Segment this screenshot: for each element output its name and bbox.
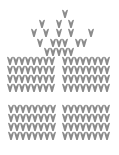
lid-right-stitch-icon [62,75,68,83]
lid-right-stitch-icon [104,66,110,74]
lid-left-stitch-icon [31,57,37,65]
base-left-stitch-icon [38,132,44,140]
base-right-stitch-icon [62,105,68,113]
base-right-stitch-icon [80,132,86,140]
lid-right-stitch-icon [80,66,86,74]
bow-stitch-icon [50,48,56,56]
bow-stitch-icon [44,48,50,56]
lid-left-stitch-icon [7,57,13,65]
lid-left-stitch-icon [43,75,49,83]
bow-stitch-icon [43,29,49,37]
base-left-stitch-icon [50,114,56,122]
lid-right-stitch-icon [104,75,110,83]
lid-left-stitch-icon [49,84,55,92]
bow-stitch-icon [56,29,62,37]
base-left-stitch-icon [8,105,14,113]
base-right-stitch-icon [74,123,80,131]
lid-left-stitch-icon [7,84,13,92]
base-right-stitch-icon [104,132,110,140]
bow-stitch-icon [88,29,94,37]
gift-box-icon [0,0,119,155]
base-left-stitch-icon [44,114,50,122]
lid-right-stitch-icon [92,66,98,74]
lid-right-stitch-icon [68,66,74,74]
base-left-stitch-icon [26,123,32,131]
base-right-stitch-icon [98,114,104,122]
base-left-stitch-icon [20,105,26,113]
base-right-stitch-icon [80,105,86,113]
base-left-stitch-icon [44,105,50,113]
lid-left-stitch-icon [31,75,37,83]
bow-stitch-icon [62,39,68,47]
bow-stitch-icon [68,48,74,56]
base-right-stitch-icon [98,123,104,131]
base-right-stitch-icon [62,114,68,122]
lid-left-stitch-icon [37,84,43,92]
bow-stitch-icon [81,39,87,47]
base-right-stitch-icon [68,114,74,122]
lid-left-stitch-icon [49,57,55,65]
lid-right-stitch-icon [86,75,92,83]
bow-stitch-icon [68,20,74,28]
base-right-stitch-icon [86,105,92,113]
lid-right-stitch-icon [86,57,92,65]
lid-right-stitch-icon [92,84,98,92]
lid-left-stitch-icon [7,66,13,74]
bow-stitch-icon [56,39,62,47]
lid-right-stitch-icon [62,57,68,65]
bow-stitch-icon [31,29,37,37]
lid-left-stitch-icon [37,57,43,65]
lid-right-stitch-icon [74,75,80,83]
bow-stitch-icon [56,20,62,28]
base-left-stitch-icon [44,132,50,140]
lid-right-stitch-icon [98,84,104,92]
base-right-stitch-icon [74,114,80,122]
lid-right-stitch-icon [98,66,104,74]
lid-left-stitch-icon [13,66,19,74]
base-left-stitch-icon [26,114,32,122]
base-right-stitch-icon [98,105,104,113]
base-left-stitch-icon [38,123,44,131]
bow-stitch-icon [62,10,68,18]
base-right-stitch-icon [92,105,98,113]
lid-right-stitch-icon [86,84,92,92]
bow-stitch-icon [75,39,81,47]
bow-stitch-icon [68,29,74,37]
lid-left-stitch-icon [7,75,13,83]
knitted-gift-icon [0,0,119,155]
lid-left-stitch-icon [31,84,37,92]
base-right-stitch-icon [92,123,98,131]
lid-right-stitch-icon [80,75,86,83]
base-left-stitch-icon [38,114,44,122]
bow-stitch-icon [62,48,68,56]
base-left-stitch-icon [20,132,26,140]
base-left-stitch-icon [14,132,20,140]
bow-stitch-icon [56,48,62,56]
base-left-stitch-icon [32,114,38,122]
lid-right-stitch-icon [98,75,104,83]
base-left-stitch-icon [44,123,50,131]
base-right-stitch-icon [68,123,74,131]
lid-right-stitch-icon [74,84,80,92]
lid-left-stitch-icon [13,57,19,65]
lid-left-stitch-icon [19,75,25,83]
lid-left-stitch-icon [19,84,25,92]
lid-right-stitch-icon [80,84,86,92]
base-right-stitch-icon [92,114,98,122]
base-left-stitch-icon [38,105,44,113]
base-left-stitch-icon [20,114,26,122]
base-right-stitch-icon [104,114,110,122]
lid-left-stitch-icon [49,75,55,83]
lid-right-stitch-icon [104,84,110,92]
base-right-stitch-icon [68,132,74,140]
base-left-stitch-icon [32,132,38,140]
base-right-stitch-icon [86,123,92,131]
base-left-stitch-icon [32,105,38,113]
base-left-stitch-icon [8,114,14,122]
bow-stitch-icon [39,20,45,28]
lid-left-stitch-icon [37,66,43,74]
lid-left-stitch-icon [13,75,19,83]
lid-right-stitch-icon [86,66,92,74]
base-right-stitch-icon [86,114,92,122]
lid-left-stitch-icon [25,75,31,83]
